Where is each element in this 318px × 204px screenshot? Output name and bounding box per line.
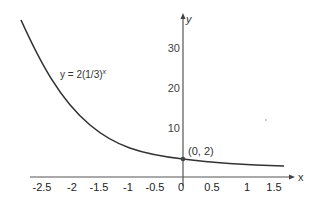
equation-base: y = 2(1/3) <box>60 69 103 80</box>
x-axis-arrow-icon <box>289 175 295 180</box>
x-tick--0.5: -0.5 <box>146 181 165 193</box>
y-axis-label: y <box>185 13 193 25</box>
y-tick-labels: 30 20 10 <box>168 42 180 134</box>
y-tick-20: 20 <box>168 82 180 94</box>
equation-label: y = 2(1/3)x <box>60 68 107 80</box>
y-tick-30: 30 <box>168 42 180 54</box>
x-tick--1: -1 <box>123 181 133 193</box>
x-tick--2: -2 <box>67 181 77 193</box>
x-tick--1.5: -1.5 <box>90 181 109 193</box>
y-axis-arrow-icon <box>181 13 186 19</box>
exponential-curve <box>21 20 284 166</box>
equation-exponent: x <box>102 68 107 75</box>
x-tick-1: 1 <box>244 181 250 193</box>
chart-canvas: x y 30 20 10 -2.5 -2 -1.5 -1 -0.5 0 0.5 … <box>0 0 318 204</box>
x-tick-0.5: 0.5 <box>204 181 219 193</box>
point-label: (0, 2) <box>188 145 214 157</box>
y-tick-10: 10 <box>168 122 180 134</box>
x-tick-0: 0 <box>178 181 184 193</box>
x-tick--2.5: -2.5 <box>33 181 52 193</box>
x-tick-labels: -2.5 -2 -1.5 -1 -0.5 0 0.5 1 1.5 <box>33 181 282 193</box>
x-axis-label: x <box>298 171 304 183</box>
x-tick-1.5: 1.5 <box>266 181 281 193</box>
speck <box>265 119 267 121</box>
point-0-2 <box>181 157 186 162</box>
